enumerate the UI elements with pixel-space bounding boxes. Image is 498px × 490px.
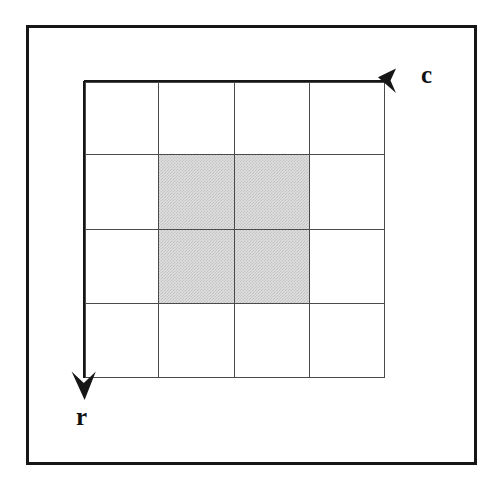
grid-cell-r0-c1: [159, 81, 234, 155]
grid-cell-r3-c0: [84, 304, 159, 378]
column-axis-line: [84, 80, 385, 82]
grid-cell-r3-c3: [310, 304, 385, 378]
arrow-down-icon: [71, 371, 97, 401]
diagram-canvas: c r: [0, 0, 498, 490]
grid-cell-r1-c3: [310, 155, 385, 229]
grid-cell-r3-c1: [159, 304, 234, 378]
row-axis-line: [83, 81, 85, 378]
grid-cell-r1-c0: [84, 155, 159, 229]
grid: [84, 81, 385, 378]
grid-cell-r2-c2: [235, 230, 310, 304]
grid-cell-r2-c3: [310, 230, 385, 304]
grid-cell-r0-c0: [84, 81, 159, 155]
column-axis-label: c: [421, 62, 432, 87]
grid-cell-r1-c2: [235, 155, 310, 229]
grid-cell-r0-c2: [235, 81, 310, 155]
grid-cell-r2-c0: [84, 230, 159, 304]
arrow-right-icon: [378, 68, 406, 94]
grid-cell-r3-c2: [235, 304, 310, 378]
grid-cell-r2-c1: [159, 230, 234, 304]
grid-cell-r1-c1: [159, 155, 234, 229]
row-axis-label: r: [76, 404, 87, 429]
grid-cell-r0-c3: [310, 81, 385, 155]
